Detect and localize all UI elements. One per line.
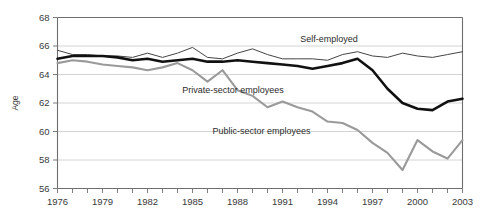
y-tick-label: 66	[39, 40, 50, 51]
y-axis-title: Age	[10, 95, 20, 110]
line-chart: 56586062646668 1976197919821985198819911…	[0, 0, 485, 223]
x-tick-label: 1991	[272, 196, 293, 207]
y-tick-labels-group: 56586062646668	[39, 12, 50, 194]
x-tick-label: 1982	[137, 196, 158, 207]
x-tick-label: 1979	[92, 196, 113, 207]
x-tick-label: 2000	[407, 196, 428, 207]
chart-container: 56586062646668 1976197919821985198819911…	[0, 0, 485, 223]
x-tick-label: 1988	[227, 196, 248, 207]
series-label-private-sector-employees: Private-sector employees	[182, 85, 284, 95]
y-tick-label: 68	[39, 12, 50, 23]
x-tick-label: 1976	[47, 196, 68, 207]
x-tick-label: 1997	[362, 196, 383, 207]
series-label-self-employed: Self-employed	[300, 34, 358, 44]
x-tick-label: 2003	[452, 196, 473, 207]
x-tick-label: 1985	[182, 196, 203, 207]
y-tick-label: 64	[39, 69, 50, 80]
series-line-public-sector-employees	[58, 60, 463, 170]
y-tick-label: 62	[39, 97, 50, 108]
data-series-group	[58, 47, 463, 170]
y-axis-title-group: Age	[10, 95, 20, 110]
tick-marks-group	[53, 18, 463, 194]
x-tick-labels-group: 1976197919821985198819911994199720002003	[47, 196, 473, 207]
series-label-public-sector-employees: Public-sector employees	[212, 126, 311, 136]
x-tick-label: 1994	[317, 196, 338, 207]
y-tick-label: 56	[39, 183, 50, 194]
y-tick-label: 58	[39, 154, 50, 165]
y-tick-label: 60	[39, 126, 50, 137]
